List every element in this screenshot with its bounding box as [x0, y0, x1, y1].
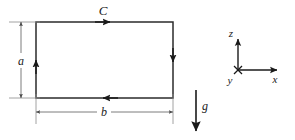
coordinate-axes: z x y — [227, 27, 278, 86]
figure-canvas: C a b g z x — [0, 0, 295, 140]
dimension-a-label: a — [18, 54, 24, 68]
contour-outline — [36, 22, 173, 98]
axis-x-label: x — [272, 73, 278, 85]
contour-rectangle — [36, 22, 173, 98]
dimension-b-label: b — [101, 105, 107, 119]
physics-diagram: C a b g z x — [0, 0, 295, 140]
gravity-vector: g — [196, 90, 208, 131]
axis-z-label: z — [228, 27, 234, 39]
gravity-label: g — [202, 99, 208, 113]
contour-label: C — [99, 3, 108, 18]
axis-y-label: y — [227, 74, 233, 86]
